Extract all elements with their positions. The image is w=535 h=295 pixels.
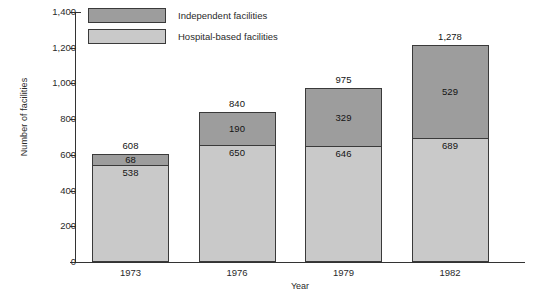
y-tick-400: 400 (0, 191, 76, 192)
bar-group-1973: 60868538 (92, 12, 169, 262)
bar-segment-independent-1973[interactable]: 68 (92, 154, 169, 166)
y-tick-label: 800 (38, 113, 76, 124)
stacked-bar-chart: Number of facilities 02004006008001,0001… (0, 0, 535, 295)
y-axis-title: Number of facilities (19, 37, 29, 197)
bar-segment-independent-1979[interactable]: 329 (305, 88, 382, 147)
bar-segment-hospital-based-1979[interactable]: 646 (305, 147, 382, 262)
bar-total-label-1982: 1,278 (412, 31, 489, 42)
legend-item-hospital-based: Hospital-based facilities (88, 28, 278, 44)
x-tick-label-1976: 1976 (199, 267, 276, 278)
bar-segment-value: 529 (442, 87, 458, 97)
y-tick-label: 0 (38, 256, 76, 267)
y-tick-label: 1,200 (38, 42, 76, 53)
bar-group-1976: 840190650 (199, 12, 276, 262)
y-tick-200: 200 (0, 226, 76, 227)
y-tick-1400: 1,400 (0, 12, 76, 13)
y-tick-label: 200 (38, 220, 76, 231)
y-tick-1200: 1,200 (0, 48, 76, 49)
y-tick-label: 600 (38, 149, 76, 160)
bar-segment-hospital-based-1973[interactable]: 538 (92, 166, 169, 262)
y-tick-label: 1,000 (38, 77, 76, 88)
legend-swatch-hospital-based-icon (88, 29, 166, 44)
y-tick-label: 400 (38, 185, 76, 196)
bar-segment-value: 689 (442, 141, 458, 151)
bar-total-label-1973: 608 (92, 140, 169, 151)
y-tick-600: 600 (0, 155, 76, 156)
bar-group-1979: 975329646 (305, 12, 382, 262)
x-tick-label-1982: 1982 (412, 267, 489, 278)
bar-segment-value: 190 (229, 124, 245, 134)
legend-swatch-independent-icon (88, 8, 166, 23)
bar-segment-hospital-based-1976[interactable]: 650 (199, 146, 276, 262)
x-tick-label-1979: 1979 (305, 267, 382, 278)
x-axis-line (75, 262, 525, 263)
bar-segment-value: 538 (123, 168, 139, 178)
bar-segment-value: 650 (229, 148, 245, 158)
y-tick-800: 800 (0, 119, 76, 120)
bar-segment-hospital-based-1982[interactable]: 689 (412, 139, 489, 262)
bar-total-label-1976: 840 (199, 98, 276, 109)
x-axis-title: Year (75, 281, 525, 291)
bar-segment-value: 329 (336, 113, 352, 123)
legend-label-hospital-based: Hospital-based facilities (178, 31, 278, 42)
bar-segment-independent-1976[interactable]: 190 (199, 112, 276, 146)
x-tick-label-1973: 1973 (92, 267, 169, 278)
y-tick-label: 1,400 (38, 6, 76, 17)
legend-label-independent: Independent facilities (178, 10, 267, 21)
y-tick-0: 0 (0, 262, 76, 263)
legend: Independent facilities Hospital-based fa… (88, 7, 278, 49)
bar-segment-independent-1982[interactable]: 529 (412, 45, 489, 139)
bar-segment-value: 68 (125, 155, 136, 165)
bar-group-1982: 1,278529689 (412, 12, 489, 262)
y-tick-1000: 1,000 (0, 83, 76, 84)
bar-segment-value: 646 (336, 149, 352, 159)
bar-total-label-1979: 975 (305, 74, 382, 85)
legend-item-independent: Independent facilities (88, 7, 278, 23)
